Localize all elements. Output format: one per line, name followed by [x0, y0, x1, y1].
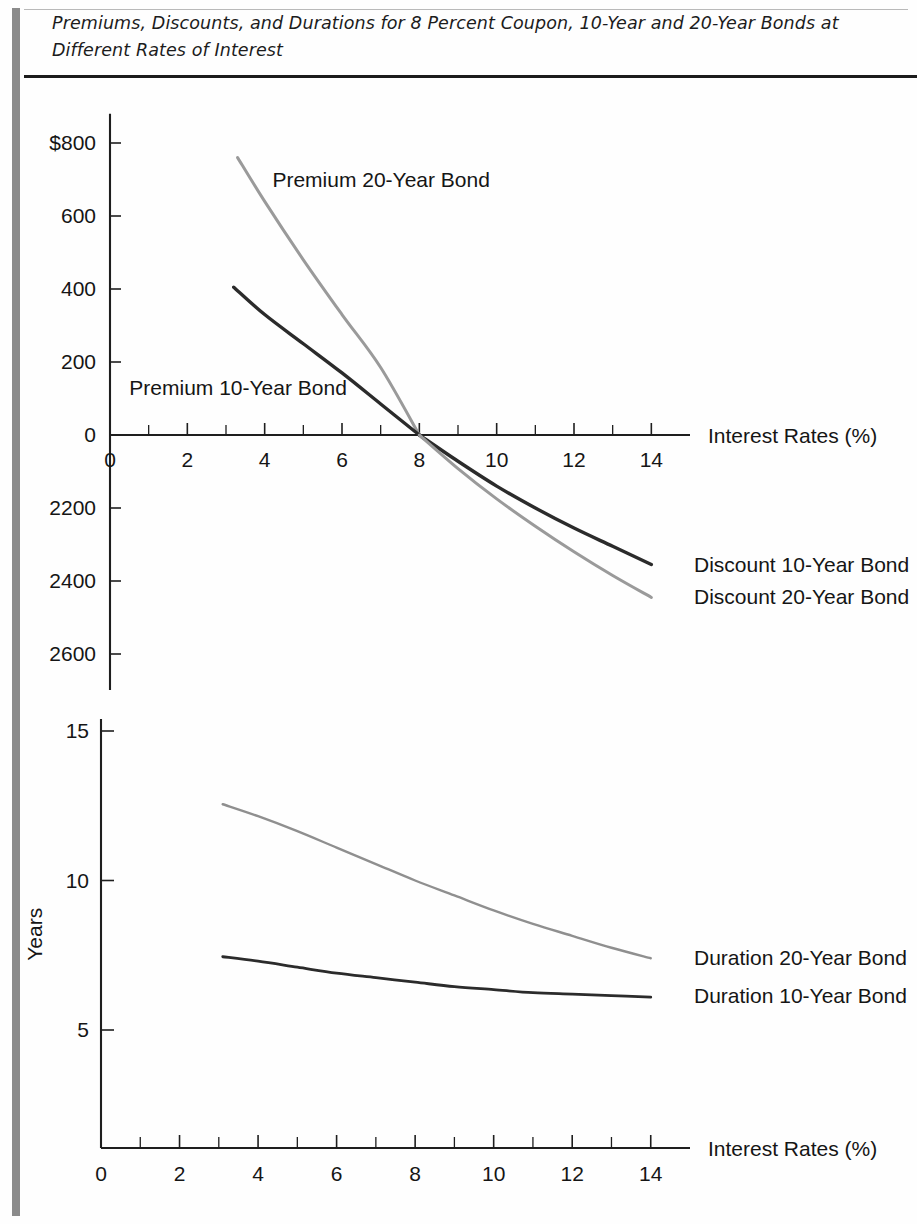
x-tick-label: 6 [331, 1162, 343, 1185]
y-tick-label: 2200 [49, 496, 96, 519]
label-premium-10-year-bond: Premium 10-Year Bond [129, 376, 347, 399]
page-canvas: Premiums, Discounts, and Durations for 8… [0, 0, 917, 1224]
figure-title-line-2: Different Rates of Interest [52, 40, 283, 60]
y-tick-label: 200 [61, 350, 96, 373]
y-tick-label: 5 [77, 1018, 89, 1041]
series-curve-premium-10-year-bond [234, 287, 420, 435]
y-tick-label: $800 [49, 131, 96, 154]
figure-title-line-1: Premiums, Discounts, and Durations for 8… [52, 13, 839, 33]
label-duration-20-year-bond: Duration 20-Year Bond [694, 946, 907, 969]
y-tick-label: 600 [61, 204, 96, 227]
x-tick-label: 10 [485, 448, 508, 471]
y-tick-label: 2400 [49, 569, 96, 592]
label-discount-10-year-bond: Discount 10-Year Bond [694, 553, 909, 576]
y-tick-label: 10 [66, 869, 89, 892]
x-tick-label: 12 [561, 1162, 584, 1185]
bottom-chart-curves [223, 804, 651, 997]
top-chart-series-labels: Premium 20-Year BondPremium 10-Year Bond… [129, 168, 909, 609]
label-duration-10-year-bond: Duration 10-Year Bond [694, 984, 907, 1007]
x-tick-label: 8 [413, 448, 425, 471]
series-curve-duration-10-year-bond [223, 957, 651, 997]
x-tick-label: 0 [95, 1162, 107, 1185]
x-axis-title: Interest Rates (%) [708, 424, 877, 447]
label-discount-20-year-bond: Discount 20-Year Bond [694, 585, 909, 608]
x-tick-label: 10 [482, 1162, 505, 1185]
x-tick-label: 14 [639, 1162, 663, 1185]
x-tick-label: 4 [259, 448, 271, 471]
label-premium-20-year-bond: Premium 20-Year Bond [272, 168, 490, 191]
duration-chart: 1510502468101214Interest Rates (%)Years … [0, 690, 917, 1224]
y-tick-label: 2600 [49, 642, 96, 665]
x-tick-label: 6 [336, 448, 348, 471]
x-axis-title: Interest Rates (%) [708, 1137, 877, 1160]
bottom-chart-series-labels: Duration 20-Year BondDuration 10-Year Bo… [694, 946, 907, 1006]
x-tick-label: 2 [181, 448, 193, 471]
x-tick-label: 2 [174, 1162, 186, 1185]
premium-discount-chart: $800600400200022002400260002468101214Int… [0, 90, 917, 690]
y-tick-label: 400 [61, 277, 96, 300]
y-tick-label: 0 [84, 423, 96, 446]
y-axis-title: Years [23, 908, 46, 961]
header-rule [24, 75, 917, 78]
figure-title: Premiums, Discounts, and Durations for 8… [52, 10, 902, 64]
series-curve-discount-10-year-bond [419, 435, 651, 565]
y-tick-label: 15 [66, 719, 89, 742]
x-tick-label: 8 [409, 1162, 421, 1185]
x-tick-label: 12 [562, 448, 585, 471]
x-tick-label: 4 [252, 1162, 264, 1185]
series-curve-duration-20-year-bond [223, 804, 651, 958]
x-tick-label: 0 [104, 448, 116, 471]
x-tick-label: 14 [640, 448, 664, 471]
